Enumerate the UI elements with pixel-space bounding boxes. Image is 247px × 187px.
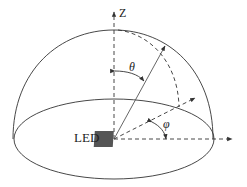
projection-axis [114, 98, 195, 139]
led-label: LED [74, 131, 99, 144]
theta-label: θ [129, 61, 135, 73]
hemisphere-dome [13, 30, 213, 139]
hemisphere-diagram [0, 0, 247, 187]
meridian-arc [118, 30, 179, 107]
z-axis-label: Z [119, 7, 126, 19]
phi-label: φ [163, 118, 170, 130]
